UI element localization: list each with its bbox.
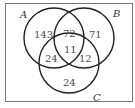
label-a: A <box>19 9 27 20</box>
region-a-b: 72 <box>63 28 76 39</box>
region-a-only: 143 <box>34 29 53 40</box>
label-b: B <box>112 8 120 19</box>
region-b-only: 71 <box>89 29 102 40</box>
region-b-c: 12 <box>79 53 92 64</box>
region-c-only: 24 <box>63 77 76 88</box>
venn-diagram: A B C 143 71 72 11 24 12 24 <box>0 0 135 108</box>
region-a-c: 24 <box>45 53 58 64</box>
label-c: C <box>93 92 101 103</box>
region-a-b-c: 11 <box>64 44 77 55</box>
